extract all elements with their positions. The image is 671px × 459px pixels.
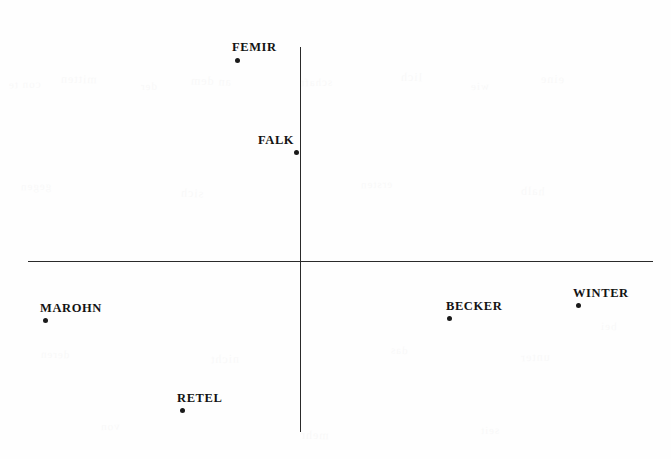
ghost-text: deren [40,348,70,361]
ghost-text: mehr [300,428,329,443]
ghost-text: nicht [210,352,239,368]
data-point-label: MAROHN [40,301,102,316]
ghost-text: seit [480,424,499,436]
data-point [576,303,581,308]
ghost-text: mitten [60,72,97,88]
ghost-text: bei [600,320,617,332]
ghost-text: sich [180,186,204,202]
data-point-label: FALK [258,133,294,148]
data-point [294,150,299,155]
ghost-text: unter [520,350,550,366]
ghost-text: der [140,80,157,92]
ghost-text: gegen [20,180,51,193]
ghost-text: lich [400,70,422,85]
x-axis-line [28,261,653,262]
ghost-text: von [100,420,120,433]
ghost-text: eine [540,72,564,87]
data-point [43,318,48,323]
data-point-label: WINTER [573,286,629,301]
data-point [235,58,240,63]
data-point-label: FEMIR [232,40,277,55]
scatter-plot-figure: con temittenderan demschaftlichwieeinege… [0,0,671,459]
ghost-text: an dem [190,73,231,89]
ghost-text: con te [8,77,41,90]
ghost-text: schaft [300,76,332,89]
ghost-text: wie [470,80,489,93]
data-point-label: BECKER [446,299,502,314]
data-point [447,316,452,321]
y-axis-line [300,47,301,432]
data-point [180,408,185,413]
ghost-text: halb [520,184,545,199]
scan-ghosting-artifacts: con temittenderan demschaftlichwieeinege… [0,0,671,459]
ghost-text: ersten [360,178,392,191]
data-point-label: RETEL [177,391,222,406]
ghost-text: das [390,344,408,357]
